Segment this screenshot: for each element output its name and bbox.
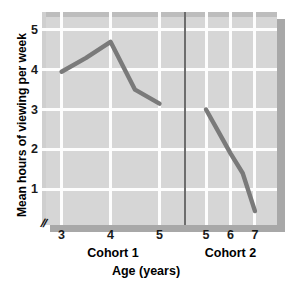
x-tick-label: 4 <box>98 229 124 241</box>
series-line <box>62 42 160 104</box>
x-tick-label: 5 <box>147 229 173 241</box>
y-axis-title: Mean hours of viewing per week <box>15 27 29 223</box>
x-tick-label: 5 <box>193 229 219 241</box>
cohort-label: Cohort 1 <box>53 246 173 260</box>
plot-area <box>42 12 277 225</box>
chart-figure: 12345 345567 // Mean hours of viewing pe… <box>0 0 292 283</box>
x-tick-label: 7 <box>242 229 268 241</box>
cohort-label: Cohort 2 <box>170 246 290 260</box>
x-axis-title: Age (years) <box>0 264 292 278</box>
series-line <box>206 110 255 212</box>
data-series-layer <box>42 12 277 225</box>
x-tick-label: 6 <box>217 229 243 241</box>
x-axis-tick-labels: 345567 <box>0 229 292 245</box>
x-tick-label: 3 <box>49 229 75 241</box>
